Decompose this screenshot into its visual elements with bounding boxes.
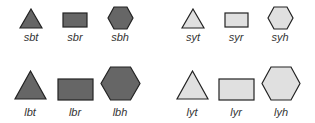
large-light-hexagon-icon [261, 66, 301, 101]
label-syh: syh [260, 31, 300, 43]
large-dark-hexagon-icon [100, 66, 141, 101]
small-light-hexagon-icon [267, 6, 294, 30]
label-syt: syt [173, 31, 213, 43]
label-lyt: lyt [172, 106, 212, 118]
label-lbr: lbr [55, 106, 95, 118]
small-dark-hexagon-icon [107, 6, 134, 30]
label-lyh: lyh [261, 106, 301, 118]
small-dark-rectangle-icon [62, 12, 88, 28]
small-light-rectangle-icon [224, 12, 249, 28]
label-sbt: sbt [11, 31, 51, 43]
label-sbh: sbh [100, 31, 140, 43]
label-lyr: lyr [216, 106, 256, 118]
label-lbh: lbh [100, 106, 140, 118]
small-dark-triangle-icon [19, 8, 43, 29]
large-light-triangle-icon [176, 70, 209, 100]
large-dark-rectangle-icon [57, 78, 94, 101]
large-light-rectangle-icon [218, 78, 255, 101]
label-lbt: lbt [10, 106, 50, 118]
small-light-triangle-icon [181, 8, 205, 29]
large-dark-triangle-icon [14, 70, 47, 100]
label-syr: syr [216, 31, 256, 43]
label-sbr: sbr [55, 31, 95, 43]
